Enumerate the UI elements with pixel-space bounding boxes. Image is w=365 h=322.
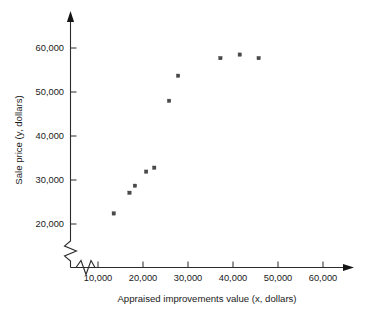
y-tick-label-60000: 60,000 (36, 43, 64, 53)
data-point (176, 74, 179, 77)
x-tick-label-40000: 40,000 (219, 273, 247, 283)
data-point (133, 184, 136, 187)
data-point (238, 53, 241, 56)
y-axis-title: Sale price (y, dollars) (13, 95, 24, 184)
x-axis-arrow-icon (343, 264, 354, 271)
data-point (167, 99, 170, 102)
y-tick-marks (71, 48, 77, 224)
data-point (112, 212, 115, 215)
x-tick-label-60000: 60,000 (309, 273, 337, 283)
x-tick-label-10000: 10,000 (84, 273, 112, 283)
data-point (257, 56, 260, 59)
y-axis-break-icon (65, 240, 77, 267)
plot-canvas: 20,00030,00040,00050,00060,000 10,00020,… (0, 0, 365, 322)
data-points-layer (112, 53, 260, 215)
y-axis-arrow-icon (67, 11, 74, 22)
x-tick-labels: 10,00020,00030,00040,00050,00060,000 (84, 273, 337, 283)
data-point (153, 166, 156, 169)
y-axis-group: 20,00030,00040,00050,00060,000 (36, 11, 77, 267)
y-tick-label-50000: 50,000 (36, 87, 64, 97)
data-point (219, 56, 222, 59)
data-point (128, 191, 131, 194)
data-point (144, 170, 147, 173)
x-tick-marks (98, 262, 323, 268)
y-tick-label-40000: 40,000 (36, 131, 64, 141)
y-tick-label-30000: 30,000 (36, 175, 64, 185)
y-tick-label-20000: 20,000 (36, 219, 64, 229)
x-tick-label-30000: 30,000 (174, 273, 202, 283)
x-tick-label-50000: 50,000 (264, 273, 292, 283)
x-axis-group: 10,00020,00030,00040,00050,00060,000 (71, 261, 355, 284)
y-tick-labels: 20,00030,00040,00050,00060,000 (36, 43, 64, 229)
scatter-plot-figure: 20,00030,00040,00050,00060,000 10,00020,… (0, 0, 365, 322)
x-axis-title: Appraised improvements value (x, dollars… (117, 293, 296, 304)
x-tick-label-20000: 20,000 (129, 273, 157, 283)
